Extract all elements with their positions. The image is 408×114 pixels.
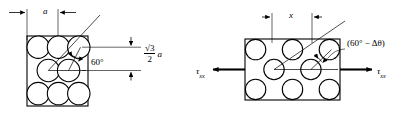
fraction-numerator: √3 — [144, 44, 155, 53]
right-width-dimension-label: x — [289, 11, 293, 20]
atom-circle — [319, 79, 339, 99]
atom-circle — [282, 79, 302, 99]
fraction-denominator: 2 — [144, 53, 155, 64]
figure-root: a 60° √3 2 a x (60° − Δθ) τxx τxx — [0, 0, 408, 114]
left-panel-group — [9, 9, 141, 106]
left-width-dimension-label: a — [43, 7, 48, 16]
atom-circle — [319, 39, 339, 59]
atom-circle — [245, 79, 265, 99]
fraction-variable: a — [157, 50, 162, 59]
tau-subscript-left: xx — [199, 73, 204, 79]
left-angle-label: 60° — [91, 58, 104, 67]
tau-subscript-right: xx — [380, 73, 385, 79]
right-angle-label: (60° − Δθ) — [347, 39, 385, 48]
atom-circle — [27, 36, 49, 58]
atom-circle — [27, 82, 49, 104]
right-panel-group — [213, 13, 372, 100]
left-height-dimension-label: √3 2 a — [144, 44, 162, 65]
atom-circle — [47, 82, 69, 104]
atom-circle — [245, 39, 265, 59]
atom-circle — [68, 82, 90, 104]
sqrt3-over-2-fraction: √3 2 — [144, 44, 155, 65]
diagram-vector-layer — [0, 0, 408, 114]
stress-label-left: τxx — [196, 61, 205, 79]
atom-circle — [47, 36, 69, 58]
stress-label-right: τxx — [377, 61, 386, 79]
